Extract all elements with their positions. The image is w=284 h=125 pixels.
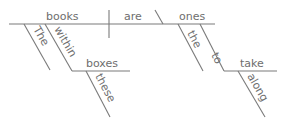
word-along: along <box>244 71 271 104</box>
word-take: take <box>240 57 264 70</box>
verb-object-divider <box>155 10 163 24</box>
word-books: books <box>46 10 79 23</box>
word-to: to <box>208 50 225 66</box>
word-the-subject: The <box>30 23 52 48</box>
sentence-diagram: books are ones The within boxes these th… <box>0 0 284 125</box>
word-boxes: boxes <box>86 57 118 70</box>
word-ones: ones <box>179 10 205 23</box>
word-the-object: the <box>184 28 204 50</box>
infinitive-line-to <box>200 24 224 71</box>
word-are: are <box>124 10 142 23</box>
word-these: these <box>92 71 118 104</box>
